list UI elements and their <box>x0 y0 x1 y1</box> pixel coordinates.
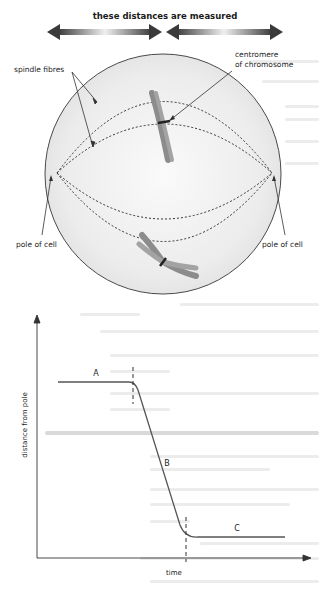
y-axis-label: distance from pole <box>21 392 29 457</box>
centromere-label-line1: centromere <box>235 50 279 59</box>
x-axis-arrow-icon <box>303 555 311 561</box>
pole-right-label: pole of cell <box>262 240 303 249</box>
spindle-fibres-label: spindle fibres <box>14 65 64 74</box>
pole-left-label: pole of cell <box>16 240 57 249</box>
measurement-arrow-left <box>47 24 162 40</box>
measured-distances-title: these distances are measured <box>93 11 238 21</box>
measurement-arrow-right <box>166 24 283 40</box>
y-axis-arrow-icon <box>34 315 40 323</box>
segment-label-a: A <box>93 369 99 378</box>
segment-label-c: C <box>234 524 240 533</box>
segment-label-b: B <box>164 459 170 468</box>
figure-canvas: these distances are measured spindle fib… <box>0 0 319 590</box>
graph-axes <box>34 315 311 561</box>
x-axis-label: time <box>166 569 182 577</box>
centromere-label-line2: of chromosome <box>235 60 294 69</box>
distance-curve <box>58 382 285 537</box>
